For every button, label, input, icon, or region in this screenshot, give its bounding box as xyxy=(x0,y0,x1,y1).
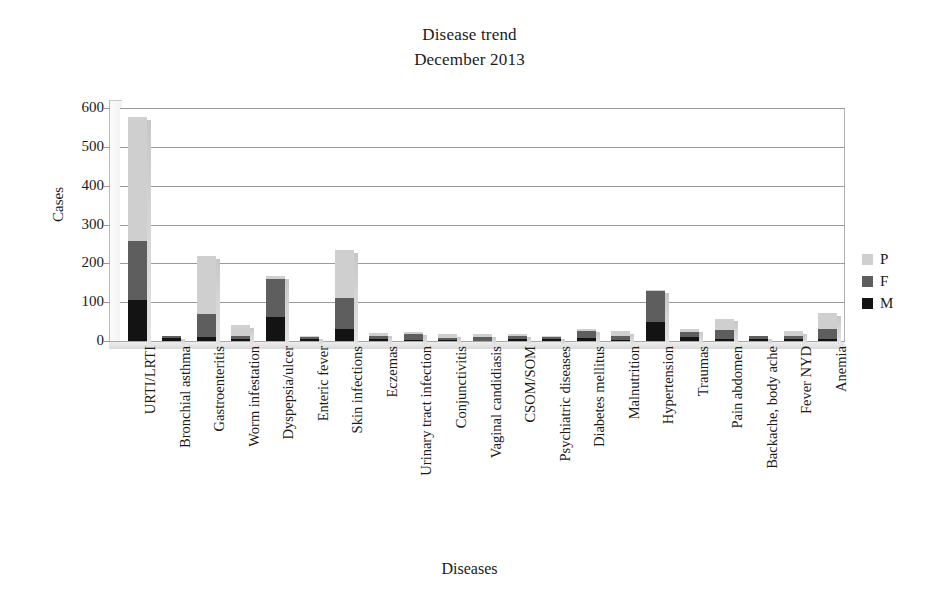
bar-segment-p xyxy=(784,331,803,335)
bar-group[interactable] xyxy=(404,332,423,341)
bar-segment-m xyxy=(784,339,803,341)
y-axis-tick xyxy=(103,186,110,187)
bar-segment-p xyxy=(438,334,457,339)
x-axis-tick-label: Backache, body ache xyxy=(765,346,780,469)
bar-segment-p xyxy=(611,331,630,336)
bar-segment-f xyxy=(438,338,457,340)
bar-segment-p xyxy=(577,329,596,331)
bar-segment-m xyxy=(715,339,734,341)
legend-item[interactable]: M xyxy=(862,292,893,314)
bar-group[interactable] xyxy=(128,117,147,341)
x-axis-tick-label: Hypertension xyxy=(661,346,676,424)
bar-segment-p xyxy=(128,117,147,241)
x-axis-tick-label: Conjunctivitis xyxy=(454,346,469,428)
bar-depth-shadow xyxy=(561,339,565,344)
legend-item[interactable]: F xyxy=(862,270,893,292)
bar-group[interactable] xyxy=(646,290,665,341)
bar-segment-f xyxy=(404,334,423,339)
x-axis-tick-label: CSOM/SOM xyxy=(523,346,538,423)
bar-segment-p xyxy=(715,319,734,331)
bar-group[interactable] xyxy=(266,276,285,341)
bar-depth-shadow xyxy=(665,293,669,344)
bar-group[interactable] xyxy=(473,334,492,341)
y-axis-tick xyxy=(103,147,110,148)
chart-title: Disease trend xyxy=(0,22,939,47)
bar-group[interactable] xyxy=(231,325,250,341)
bar-segment-p xyxy=(404,332,423,334)
bar-group[interactable] xyxy=(715,318,734,341)
bar-group[interactable] xyxy=(369,333,388,341)
bar-segment-m xyxy=(300,339,319,341)
legend-swatch-icon xyxy=(862,298,873,309)
bar-segment-m xyxy=(680,337,699,341)
x-axis-labels: URTI/LRTIBronchial asthmaGastroenteritis… xyxy=(120,346,845,546)
x-axis-tick-label: URTI/LRTI xyxy=(143,346,158,414)
bar-segment-f xyxy=(197,314,216,337)
bar-depth-shadow xyxy=(354,253,358,344)
bar-segment-p xyxy=(646,290,665,292)
x-axis-title: Diseases xyxy=(0,560,939,578)
bar-group[interactable] xyxy=(818,313,837,341)
bar-group[interactable] xyxy=(611,331,630,341)
bar-group[interactable] xyxy=(577,329,596,341)
bar-segment-p xyxy=(369,333,388,336)
bar-segment-m xyxy=(508,339,527,341)
bar-group[interactable] xyxy=(508,334,527,341)
bar-group[interactable] xyxy=(784,331,803,341)
bar-segment-f xyxy=(128,241,147,300)
bar-depth-shadow xyxy=(250,328,254,344)
legend-swatch-icon xyxy=(862,276,873,287)
bar-segment-f xyxy=(508,336,527,339)
x-axis-tick-label: Enteric fever xyxy=(316,346,331,421)
bar-segment-f xyxy=(611,336,630,340)
bar-segment-p xyxy=(508,334,527,336)
legend-swatch-icon xyxy=(862,254,873,265)
bar-depth-shadow xyxy=(457,337,461,344)
x-axis-tick-label: Dyspepsia/ulcer xyxy=(281,346,296,439)
bar-segment-m xyxy=(162,338,181,341)
bar-segment-m xyxy=(818,339,837,341)
bar-segment-f xyxy=(818,329,837,339)
bar-depth-shadow xyxy=(423,335,427,344)
y-axis-title: Cases xyxy=(50,145,67,265)
x-axis-tick-label: Vaginal candidiasis xyxy=(489,346,504,458)
legend-label: F xyxy=(880,274,888,289)
bar-segment-p xyxy=(473,334,492,337)
bar-group[interactable] xyxy=(300,336,319,341)
bar-segment-p xyxy=(818,313,837,329)
bar-segment-f xyxy=(577,331,596,338)
y-axis-tick xyxy=(103,225,110,226)
legend-label: P xyxy=(880,252,888,267)
bar-segment-f xyxy=(300,336,319,338)
bar-segment-m xyxy=(404,340,423,341)
chart-subtitle: December 2013 xyxy=(0,47,939,72)
bar-group[interactable] xyxy=(438,334,457,341)
x-axis-tick-label: Traumas xyxy=(696,346,711,396)
bar-segment-f xyxy=(369,336,388,339)
bar-segment-m xyxy=(335,329,354,341)
bar-segment-f xyxy=(162,336,181,338)
legend-label: M xyxy=(880,296,893,311)
bar-depth-shadow xyxy=(181,339,185,344)
y-axis-tick xyxy=(103,302,110,303)
bar-segment-m xyxy=(542,339,561,341)
x-axis-tick-label: Psychiatric diseases xyxy=(558,346,573,462)
chart-legend: PFM xyxy=(862,248,893,314)
bar-depth-shadow xyxy=(768,339,772,344)
bar-group[interactable] xyxy=(335,250,354,341)
y-axis-tick xyxy=(103,108,110,109)
y-axis-tick xyxy=(103,263,110,264)
bar-group[interactable] xyxy=(749,336,768,341)
bar-depth-shadow xyxy=(147,120,151,344)
bar-group[interactable] xyxy=(197,256,216,341)
bar-depth-shadow xyxy=(596,332,600,344)
y-axis-tick-label: 100 xyxy=(58,294,104,309)
x-axis-tick-label: Fever NYD xyxy=(799,346,814,414)
bar-depth-shadow xyxy=(388,336,392,344)
bar-segment-p xyxy=(680,329,699,332)
bar-group[interactable] xyxy=(542,336,561,341)
bar-group[interactable] xyxy=(680,329,699,341)
x-axis-tick-label: Anemia xyxy=(834,346,849,392)
bar-group[interactable] xyxy=(162,336,181,341)
legend-item[interactable]: P xyxy=(862,248,893,270)
